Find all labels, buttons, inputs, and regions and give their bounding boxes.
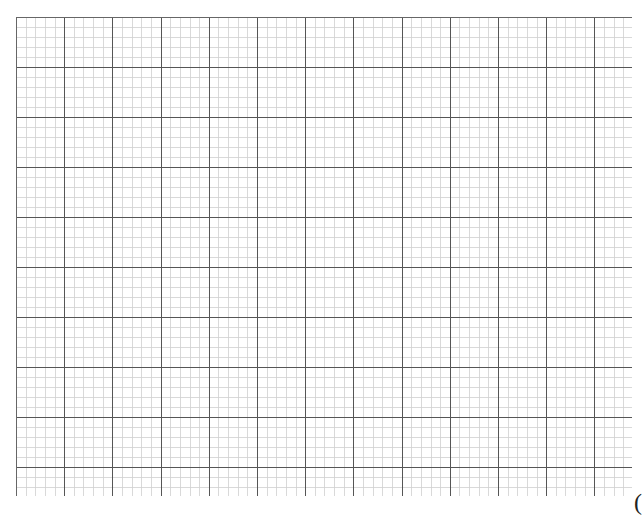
minor-grid-lines	[16, 17, 632, 496]
grid-border	[16, 17, 632, 496]
major-grid-lines	[16, 17, 632, 496]
cropped-corner-character: (	[634, 490, 642, 514]
